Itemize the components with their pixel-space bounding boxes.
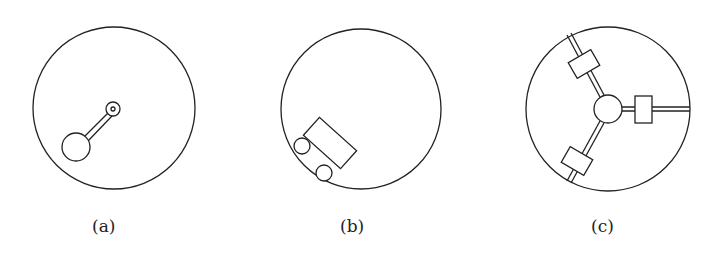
panel-label: (a)	[92, 216, 115, 236]
bob-circle	[62, 133, 90, 161]
hub-circle	[594, 95, 622, 123]
pivot-hole	[111, 107, 115, 111]
slider-right	[635, 96, 652, 123]
outer-circle	[281, 29, 441, 189]
figure-canvas: (a) (b) (c)	[0, 0, 721, 256]
panel-label: (c)	[591, 216, 614, 236]
panel-b: (b)	[281, 29, 441, 236]
panel-label: (b)	[340, 216, 364, 236]
panel-c: (c)	[526, 27, 690, 236]
panel-a: (a)	[33, 27, 195, 236]
wheel-rear	[316, 165, 332, 181]
wheel-front	[294, 138, 310, 154]
